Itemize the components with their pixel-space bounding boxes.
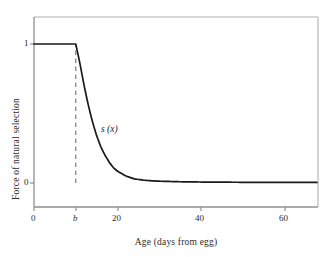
x-tick-label-20: 20 [112, 213, 121, 223]
curve-annotation-sx: s (x) [101, 124, 118, 134]
x-tick-label-b: b [73, 213, 78, 223]
x-tick-label-60: 60 [279, 213, 288, 223]
x-tick-label-40: 40 [195, 213, 204, 223]
y-tick-label-1: 1 [24, 38, 29, 48]
x-tick-label-0: 0 [31, 213, 36, 223]
x-axis-label: Age (days from egg) [34, 237, 318, 247]
y-tick-label-0: 0 [24, 177, 29, 187]
chart-figure: Force of natural selection Age (days fro… [0, 0, 330, 257]
selection-force-curve [34, 44, 317, 182]
y-axis-label: Force of natural selection [11, 0, 21, 200]
